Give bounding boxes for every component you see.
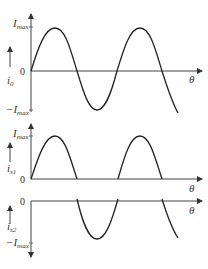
theta-label: θ xyxy=(189,204,195,216)
is1-axis-label: is1 xyxy=(7,162,16,176)
neg-imax-label: −Imax xyxy=(6,236,30,250)
panel-is1: Imax 0 is1 θ xyxy=(7,124,202,194)
panel-is2: 0 −Imax is2 θ xyxy=(6,196,202,257)
zero-label: 0 xyxy=(20,66,25,77)
zero-label: 0 xyxy=(20,196,25,207)
is1-halfwave-curve xyxy=(31,136,162,179)
imax-label: Imax xyxy=(12,17,29,31)
is2-halfwave-curve xyxy=(77,199,178,239)
zero-label: 0 xyxy=(20,174,25,185)
theta-label: θ xyxy=(189,73,195,85)
imax-label: Imax xyxy=(12,127,29,141)
is2-axis-label: is2 xyxy=(7,220,17,234)
theta-label: θ xyxy=(189,182,195,194)
i0-axis-label: i0 xyxy=(7,74,14,88)
waveform-diagram: Imax 0 −Imax i0 θ Imax 0 is1 θ 0 xyxy=(0,0,208,269)
panel-i0: Imax 0 −Imax i0 θ xyxy=(6,14,202,117)
neg-imax-label: −Imax xyxy=(6,103,30,117)
